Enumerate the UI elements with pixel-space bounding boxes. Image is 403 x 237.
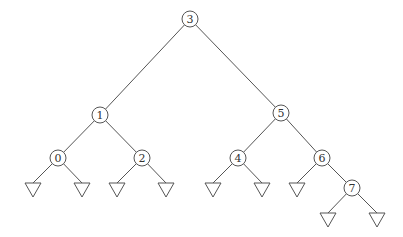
tree-edge [100, 19, 190, 115]
empty-leaf-triangle-icon [289, 183, 305, 197]
tree-edge [281, 113, 322, 158]
empty-leaf-triangle-icon [25, 183, 41, 197]
node-label: 1 [97, 109, 104, 122]
node-label: 5 [278, 107, 285, 120]
tree-node-4: 4 [230, 150, 246, 166]
node-label: 2 [139, 152, 146, 165]
tree-nodes: 31502467 [50, 11, 360, 196]
tree-node-6: 6 [314, 150, 330, 166]
tree-node-5: 5 [273, 105, 289, 121]
tree-edge [190, 19, 281, 113]
tree-edge [238, 113, 281, 158]
node-label: 3 [187, 13, 194, 26]
empty-leaf-triangle-icon [109, 183, 125, 197]
leaf-triangles [25, 183, 385, 227]
node-label: 6 [319, 152, 326, 165]
tree-node-7: 7 [344, 180, 360, 196]
tree-node-0: 0 [50, 150, 66, 166]
empty-leaf-triangle-icon [158, 183, 174, 197]
empty-leaf-triangle-icon [74, 183, 90, 197]
tree-node-2: 2 [134, 150, 150, 166]
tree-edges [58, 19, 352, 188]
tree-node-3: 3 [182, 11, 198, 27]
tree-edge [100, 115, 142, 158]
tree-node-1: 1 [92, 107, 108, 123]
tree-edge [58, 115, 100, 158]
empty-leaf-triangle-icon [254, 183, 270, 197]
empty-leaf-triangle-icon [320, 213, 336, 227]
node-label: 7 [349, 182, 356, 195]
empty-leaf-triangle-icon [205, 183, 221, 197]
binary-tree-diagram: 31502467 [0, 0, 403, 237]
empty-leaf-triangle-icon [369, 213, 385, 227]
node-label: 4 [235, 152, 242, 165]
node-label: 0 [55, 152, 62, 165]
